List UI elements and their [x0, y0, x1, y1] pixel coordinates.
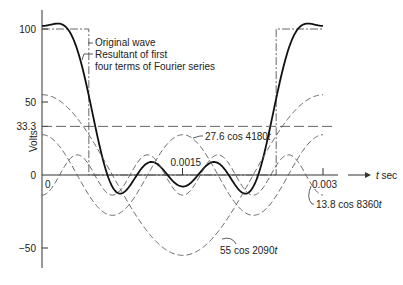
annotation-original-wave: Original wave — [88, 37, 156, 48]
x-axis-arrow — [348, 172, 371, 178]
resultant-label-line2: four terms of Fourier series — [95, 61, 215, 72]
y-tick-label: 100 — [19, 24, 36, 35]
c2-label: 27.6 cos 4180t — [205, 131, 272, 142]
original-wave-label: Original wave — [95, 37, 156, 48]
c1-label: 55 cos 2090t — [220, 245, 279, 256]
y-tick-label: 50 — [25, 97, 37, 108]
x-axis-label: t sec — [376, 170, 397, 181]
annotation-resultant: Resultant of first four terms of Fourier… — [82, 49, 215, 72]
y-tick-label: −50 — [19, 243, 36, 254]
y-tick-label: 0 — [30, 170, 36, 181]
fourier-chart: 1005033.30−50 00.00150.003 Volts t sec O… — [0, 0, 403, 285]
series-group — [42, 24, 333, 256]
annotation-c2: 27.6 cos 4180t — [193, 131, 272, 142]
resultant-label-line1: Resultant of first — [95, 49, 167, 60]
annotation-c1: 55 cos 2090t — [220, 238, 279, 256]
x-tick-label: 0.003 — [312, 179, 337, 190]
c4-label: 13.8 cos 8360t — [316, 199, 383, 210]
y-axis-label: Volts — [28, 130, 39, 152]
series-original-wave — [42, 29, 323, 175]
origin-label: 0 — [45, 179, 51, 190]
x-tick-label: 0.0015 — [171, 157, 202, 168]
